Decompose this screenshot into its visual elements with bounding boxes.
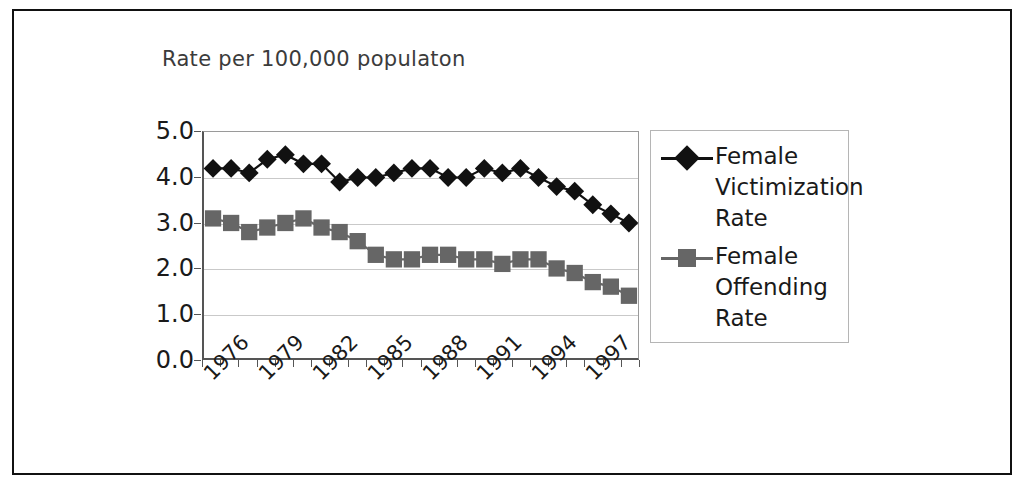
data-point-marker (240, 164, 259, 183)
legend: Female Victimization Rate Female Offendi… (650, 130, 849, 343)
plot-area (202, 131, 639, 360)
data-series (205, 210, 637, 304)
y-axis-tick-label: 2.0 (156, 254, 194, 282)
data-point-marker (276, 145, 295, 164)
data-point-marker (603, 279, 619, 295)
data-point-marker (567, 265, 583, 281)
data-point-marker (458, 251, 474, 267)
data-point-marker (529, 168, 548, 187)
y-axis-tick-mark (194, 131, 201, 132)
y-axis-tick-mark (194, 268, 201, 269)
data-point-marker (621, 288, 637, 304)
data-point-marker (493, 164, 512, 183)
data-point-marker (476, 251, 492, 267)
x-axis-labels: 19761979198219851988199119941997 (202, 368, 672, 438)
data-point-marker (422, 247, 438, 263)
data-point-marker (368, 247, 384, 263)
y-axis-tick-mark (194, 177, 201, 178)
data-point-marker (457, 168, 476, 187)
series-line (213, 155, 629, 223)
legend-entry-victimization: Female Victimization Rate (659, 141, 845, 234)
y-axis-tick-label: 1.0 (156, 300, 194, 328)
data-point-marker (494, 256, 510, 272)
data-point-marker (295, 210, 311, 226)
data-point-marker (259, 219, 275, 235)
data-point-marker (223, 215, 239, 231)
data-point-marker (511, 159, 530, 178)
data-point-marker (348, 168, 367, 187)
data-point-marker (384, 164, 403, 183)
data-point-marker (313, 219, 329, 235)
data-point-marker (205, 210, 221, 226)
chart-title: Rate per 100,000 populaton (162, 47, 466, 71)
data-point-marker (366, 168, 385, 187)
data-point-marker (475, 159, 494, 178)
legend-label-offending: Female Offending Rate (715, 241, 845, 334)
data-point-marker (404, 251, 420, 267)
y-axis-tick-label: 5.0 (156, 117, 194, 145)
y-axis-tick-mark (194, 360, 201, 361)
data-point-marker (440, 247, 456, 263)
data-point-marker (386, 251, 402, 267)
y-axis-tick-label: 4.0 (156, 163, 194, 191)
data-point-marker (294, 154, 313, 173)
figure-border: Rate per 100,000 populaton 0.01.02.03.04… (12, 9, 1012, 475)
data-point-marker (258, 150, 277, 169)
data-point-marker (547, 177, 566, 196)
y-axis-tick-mark (194, 314, 201, 315)
series-layer (204, 132, 638, 359)
data-point-marker (530, 251, 546, 267)
data-point-marker (222, 159, 241, 178)
x-axis-tick-mark (639, 360, 640, 367)
data-point-marker (620, 214, 639, 233)
figure-page: Rate per 100,000 populaton 0.01.02.03.04… (0, 0, 1028, 489)
data-point-marker (421, 159, 440, 178)
square-marker-icon (659, 243, 715, 273)
data-point-marker (601, 204, 620, 223)
y-axis-tick-label: 0.0 (156, 346, 194, 374)
y-axis-tick-label: 3.0 (156, 209, 194, 237)
legend-entry-offending: Female Offending Rate (659, 241, 845, 334)
data-point-marker (585, 274, 601, 290)
data-point-marker (331, 224, 347, 240)
data-point-marker (512, 251, 528, 267)
y-axis-tick-mark (194, 223, 201, 224)
data-point-marker (277, 215, 293, 231)
data-point-marker (204, 159, 223, 178)
data-series (204, 145, 639, 232)
data-point-marker (403, 159, 422, 178)
data-point-marker (439, 168, 458, 187)
plot-wrapper (202, 131, 639, 360)
data-point-marker (350, 233, 366, 249)
y-axis-labels: 0.01.02.03.04.05.0 (142, 131, 194, 360)
legend-label-victimization: Female Victimization Rate (715, 141, 864, 234)
data-point-marker (565, 182, 584, 201)
data-point-marker (548, 260, 564, 276)
diamond-marker-icon (659, 143, 715, 173)
data-point-marker (241, 224, 257, 240)
data-point-marker (583, 195, 602, 214)
